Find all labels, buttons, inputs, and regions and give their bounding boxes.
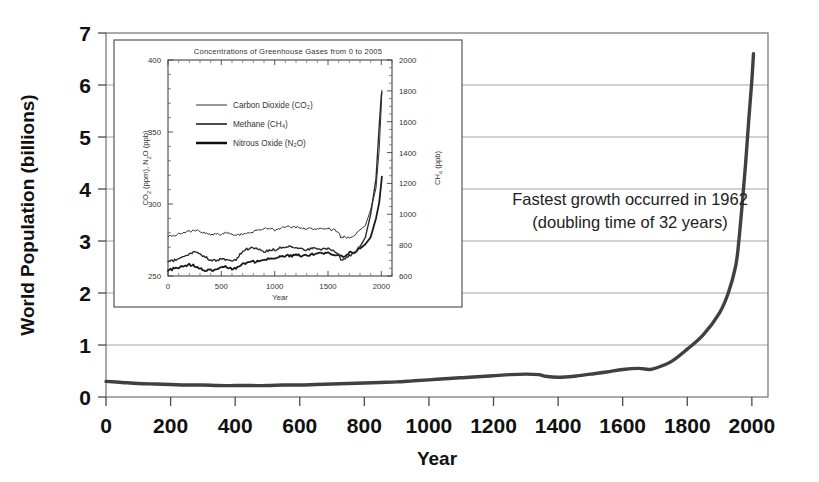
inset-outer-box bbox=[114, 40, 462, 307]
inset-y-ticklabel-right: 2000 bbox=[399, 56, 417, 65]
main-y-ticklabel: 4 bbox=[79, 178, 91, 201]
main-x-axis-title: Year bbox=[417, 448, 458, 469]
main-x-ticklabel: 1600 bbox=[599, 414, 646, 437]
main-y-ticklabel: 3 bbox=[79, 230, 91, 253]
inset-x-ticklabel: 500 bbox=[215, 282, 229, 291]
inset-y-ticklabel-right: 1400 bbox=[399, 149, 417, 158]
inset-y-ticklabel-left: 400 bbox=[148, 56, 162, 65]
inset-chart: Concentrations of Greenhouse Gases from … bbox=[114, 40, 462, 307]
main-x-ticklabel: 1200 bbox=[470, 414, 517, 437]
main-x-ticklabel: 600 bbox=[282, 414, 317, 437]
inset-x-ticklabel: 1500 bbox=[319, 282, 337, 291]
legend-label-co2: Carbon Dioxide (CO₂) bbox=[233, 101, 313, 110]
inset-y-ticklabel-right: 1000 bbox=[399, 210, 417, 219]
annotation-line-2: (doubling time of 32 years) bbox=[532, 213, 727, 231]
main-y-ticklabel: 0 bbox=[79, 386, 91, 409]
legend-label-ch4: Methane (CH₄) bbox=[233, 120, 288, 129]
main-y-ticklabel: 5 bbox=[79, 126, 91, 149]
main-x-ticklabel: 2000 bbox=[728, 414, 775, 437]
main-y-ticklabel: 2 bbox=[79, 282, 91, 305]
inset-y-ticklabel-left: 250 bbox=[148, 272, 162, 281]
main-x-ticklabel: 0 bbox=[100, 414, 112, 437]
inset-y-ticklabel-right: 800 bbox=[399, 241, 413, 250]
inset-y-ticklabel-right: 1600 bbox=[399, 118, 417, 127]
inset-title: Concentrations of Greenhouse Gases from … bbox=[194, 47, 382, 56]
inset-x-ticklabel: 0 bbox=[166, 282, 171, 291]
main-y-ticklabel: 6 bbox=[79, 74, 91, 97]
inset-x-axis-title: Year bbox=[272, 293, 288, 302]
main-x-ticklabel: 400 bbox=[218, 414, 253, 437]
population-greenhouse-figure: 01234567 0200400600800100012001400160018… bbox=[0, 0, 819, 482]
main-x-ticklabel: 1800 bbox=[664, 414, 711, 437]
inset-y-ticklabel-left: 350 bbox=[148, 128, 162, 137]
inset-y-ticklabel-right: 600 bbox=[399, 272, 413, 281]
inset-x-ticklabel: 1000 bbox=[266, 282, 284, 291]
inset-x-ticklabel: 2000 bbox=[373, 282, 391, 291]
main-y-ticklabel: 1 bbox=[79, 334, 91, 357]
main-x-ticklabel: 800 bbox=[347, 414, 382, 437]
inset-y-ticklabel-right: 1800 bbox=[399, 87, 417, 96]
legend-label-n2o: Nitrous Oxide (N₂O) bbox=[233, 139, 306, 148]
main-y-ticklabel: 7 bbox=[79, 22, 91, 45]
main-y-axis-title: World Population (billions) bbox=[17, 94, 38, 335]
inset-y-ticklabel-right: 1200 bbox=[399, 179, 417, 188]
main-x-ticklabel: 1400 bbox=[535, 414, 582, 437]
inset-y-ticklabel-left: 300 bbox=[148, 200, 162, 209]
chart-canvas: 01234567 0200400600800100012001400160018… bbox=[0, 0, 819, 482]
main-x-ticklabel: 200 bbox=[153, 414, 188, 437]
annotation-line-1: Fastest growth occurred in 1962 bbox=[512, 190, 748, 208]
main-x-ticklabel: 1000 bbox=[406, 414, 453, 437]
